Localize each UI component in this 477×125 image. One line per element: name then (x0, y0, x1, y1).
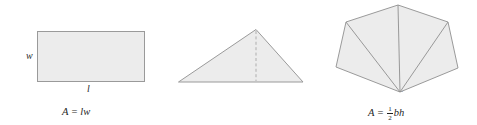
polygon-shape (310, 0, 477, 125)
rectangle-width-label: w (26, 51, 33, 61)
rectangle-formula-rhs: lw (80, 106, 90, 117)
rectangle-length-label: l (87, 84, 90, 94)
polygon-panel: A1 A2 A3 A4 A=A1+A2+A3+A4 (310, 0, 477, 125)
geometry-figure: w l A=lw h b A=12bh A1 A2 A3 A4 (0, 0, 477, 125)
rectangle-panel: w l A=lw (0, 0, 160, 125)
triangle-panel: h b A=12bh (155, 0, 315, 125)
rectangle-formula-equals: = (71, 106, 77, 117)
rectangle-formula-lhs: A (62, 106, 68, 117)
triangle-shape (155, 0, 315, 125)
rectangle-area-formula: A=lw (62, 107, 90, 118)
